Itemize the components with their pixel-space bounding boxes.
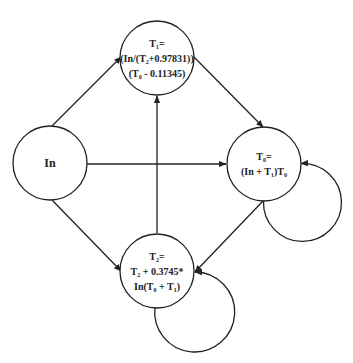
node-t2-line-2: T₂ + 0.3745* — [131, 264, 184, 279]
edges — [52, 57, 341, 352]
edge-in-to-t1 — [52, 57, 121, 126]
node-t1-line-3: (T₀ - 0.11345) — [120, 66, 193, 81]
node-t1-line-1: T₁= — [120, 36, 193, 51]
edge-t1-to-t0 — [194, 57, 263, 127]
node-in-label: In — [44, 156, 55, 171]
edge-in-to-t2 — [52, 200, 121, 271]
node-t2-line-1: T₂= — [131, 249, 184, 264]
node-t2-label: T₂= T₂ + 0.3745* In(T₀ + T₁) — [131, 249, 184, 294]
node-t1-label: T₁= (In/(T₂+0.97831)) (T₀ - 0.11345) — [120, 36, 193, 81]
node-t2-line-3: In(T₀ + T₁) — [131, 279, 184, 294]
edge-t0-to-t2 — [195, 201, 263, 272]
node-t1-line-2: (In/(T₂+0.97831)) — [120, 51, 193, 66]
node-t0-line-1: T₀= — [241, 149, 287, 164]
node-in-line-1: In — [44, 156, 55, 171]
node-t0-label: T₀= (In + T₁)T₀ — [241, 149, 287, 179]
node-t0-line-2: (In + T₁)T₀ — [241, 164, 287, 179]
